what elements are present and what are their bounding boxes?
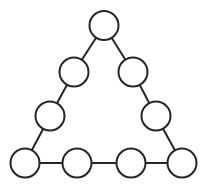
node-bottom-1 bbox=[11, 149, 40, 178]
node-bottom-3 bbox=[117, 149, 146, 178]
node-right-2 bbox=[119, 58, 148, 87]
node-left-3 bbox=[36, 102, 65, 131]
node-bottom-4 bbox=[168, 149, 197, 178]
triangle-diagram bbox=[0, 0, 205, 188]
node-bottom-2 bbox=[63, 149, 92, 178]
node-top bbox=[90, 11, 119, 40]
edges-group bbox=[25, 26, 182, 164]
node-left-2 bbox=[60, 58, 89, 87]
nodes-group bbox=[11, 11, 197, 178]
node-right-3 bbox=[142, 102, 171, 131]
